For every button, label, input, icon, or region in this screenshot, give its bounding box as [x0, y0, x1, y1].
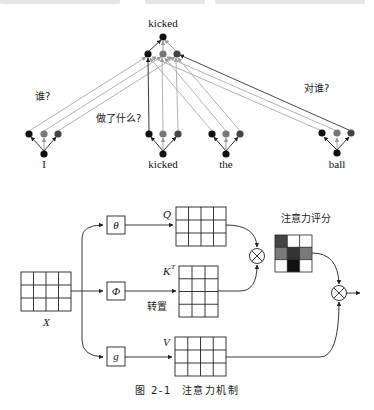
- matmul-output-operator: [332, 286, 347, 301]
- self-attention-block: X θ Φ g Q: [21, 207, 360, 376]
- word-group-kicked: kicked: [145, 130, 181, 170]
- input-matrix-X: [21, 272, 71, 311]
- word-label: I: [42, 158, 46, 170]
- question-to-whom: 对谁?: [304, 82, 329, 94]
- word-label: ball: [329, 158, 346, 170]
- theta-label: θ: [113, 219, 119, 231]
- key-label-K: K: [162, 265, 171, 277]
- word-label: the: [219, 158, 233, 170]
- word-group-ball: ball: [318, 129, 354, 170]
- attention-score-matrix: [275, 235, 312, 272]
- word-attention-tree: kicked I kicked: [25, 17, 354, 170]
- root-word-label: kicked: [148, 17, 178, 29]
- attention-edges: [29, 55, 351, 131]
- figure-title: 注意力机制: [182, 384, 240, 396]
- root-node: [159, 33, 166, 40]
- phi-label: Φ: [112, 285, 121, 297]
- transpose-superscript: T: [171, 263, 176, 271]
- attention-score-label: 注意力评分: [281, 212, 331, 224]
- word-label: kicked: [148, 158, 178, 170]
- attention-mechanism-figure: kicked I kicked: [0, 0, 374, 410]
- value-matrix-V: [175, 337, 226, 376]
- query-label-Q: Q: [163, 208, 171, 220]
- query-matrix-Q: [176, 207, 226, 246]
- head-triple: [144, 50, 180, 57]
- figure-caption: 图 2-1注意力机制: [135, 384, 240, 396]
- word-group-the: the: [208, 130, 243, 170]
- figure-number: 图 2-1: [135, 385, 172, 396]
- matmul-qk-operator: [250, 249, 265, 264]
- question-did-what: 做了什么?: [96, 112, 141, 124]
- value-label-V: V: [163, 336, 171, 348]
- transpose-note: 转置: [147, 300, 167, 312]
- g-label: g: [113, 350, 119, 362]
- word-group-I: I: [25, 130, 61, 170]
- question-who: 谁?: [35, 91, 50, 102]
- root-edges: [148, 40, 177, 52]
- key-transpose-matrix: [179, 266, 218, 317]
- input-label-X: X: [42, 316, 51, 328]
